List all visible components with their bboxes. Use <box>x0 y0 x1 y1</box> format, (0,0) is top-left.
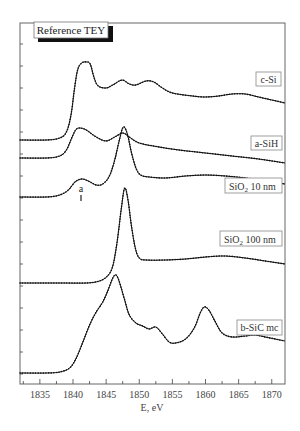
data-point <box>193 95 195 97</box>
data-point <box>186 150 188 152</box>
data-point <box>102 279 104 281</box>
data-point <box>73 132 75 134</box>
data-point <box>58 371 60 373</box>
data-point <box>238 156 240 158</box>
data-point <box>125 189 127 191</box>
data-point <box>203 96 205 98</box>
label-b-sic-mc-text: b-SiC mc <box>240 322 279 333</box>
data-point <box>151 327 153 329</box>
data-point <box>132 84 134 86</box>
data-point <box>32 139 34 141</box>
data-point <box>149 328 151 330</box>
data-point <box>274 161 276 163</box>
data-point <box>163 88 165 90</box>
data-point <box>78 353 80 355</box>
data-point <box>108 287 110 289</box>
label-sio2-100nm: SiO2 100 nm <box>220 231 282 247</box>
data-point <box>94 136 96 138</box>
data-point <box>164 177 166 179</box>
data-point <box>166 339 168 341</box>
data-point <box>113 137 115 139</box>
data-point <box>233 336 235 338</box>
data-point <box>58 282 60 284</box>
x-tick-label: 1870 <box>262 389 282 400</box>
data-point <box>270 99 272 101</box>
data-point <box>237 93 239 95</box>
data-point <box>131 230 133 232</box>
data-point <box>111 138 113 140</box>
data-point <box>153 326 155 328</box>
data-point <box>99 306 101 308</box>
data-point <box>213 96 215 98</box>
data-point <box>102 301 104 303</box>
data-point <box>87 282 89 284</box>
data-point <box>125 301 127 303</box>
x-tick-label: 1835 <box>30 389 50 400</box>
data-point <box>131 225 133 227</box>
data-point <box>277 101 279 103</box>
data-point <box>114 158 116 160</box>
data-point <box>264 336 266 338</box>
data-point <box>149 80 151 82</box>
data-point <box>242 257 244 259</box>
data-point <box>63 282 65 284</box>
data-point <box>90 65 92 67</box>
data-point <box>184 339 186 341</box>
data-point <box>148 259 150 261</box>
data-point <box>249 94 251 96</box>
data-point <box>146 259 148 261</box>
data-point <box>68 126 70 128</box>
data-point <box>165 89 167 91</box>
data-point <box>71 282 73 284</box>
data-point <box>85 333 87 335</box>
data-point <box>171 148 173 150</box>
data-point <box>243 157 245 159</box>
data-point <box>125 304 127 306</box>
data-point <box>111 280 113 282</box>
data-point <box>170 92 172 94</box>
data-point <box>82 282 84 284</box>
data-point <box>283 263 285 265</box>
data-point <box>19 196 21 198</box>
data-point <box>110 173 112 175</box>
data-point <box>140 143 142 145</box>
data-point <box>252 95 254 97</box>
data-point <box>121 205 123 207</box>
data-point <box>116 247 118 249</box>
data-point <box>127 134 129 136</box>
data-point <box>177 342 179 344</box>
data-point <box>74 83 76 85</box>
data-point <box>172 259 174 261</box>
data-point <box>73 362 75 364</box>
data-point <box>63 370 65 372</box>
data-point <box>267 261 269 263</box>
data-point <box>166 147 168 149</box>
data-point <box>195 257 197 259</box>
data-point <box>272 100 274 102</box>
data-point <box>234 256 236 258</box>
data-point <box>205 174 207 176</box>
data-point <box>130 316 132 318</box>
data-point <box>40 139 42 141</box>
data-point <box>121 208 123 210</box>
data-point <box>128 202 130 204</box>
data-point <box>22 196 24 198</box>
data-point <box>30 282 32 284</box>
data-point <box>187 175 189 177</box>
data-point <box>127 196 129 198</box>
data-point <box>120 213 122 215</box>
data-point <box>100 184 102 186</box>
reference-label-box: Reference TEY <box>34 22 113 42</box>
data-point <box>186 337 188 339</box>
data-point <box>70 139 72 141</box>
data-point <box>92 282 94 284</box>
data-point <box>19 282 21 284</box>
data-point <box>208 96 210 98</box>
data-point <box>266 337 268 339</box>
data-point <box>50 196 52 198</box>
data-point <box>133 161 135 163</box>
data-point <box>56 372 58 374</box>
data-point <box>50 372 52 374</box>
data-point <box>134 243 136 245</box>
data-point <box>48 372 50 374</box>
